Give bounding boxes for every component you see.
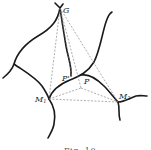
dashed-lines xyxy=(49,8,118,102)
label-M1: M1 xyxy=(34,95,46,104)
label-P: P xyxy=(83,77,90,86)
label-Pprime: P' xyxy=(61,74,70,83)
dash-G-Pprime xyxy=(60,8,72,77)
curve-M1-down xyxy=(48,99,55,138)
curve-left-ridge xyxy=(3,8,60,78)
curve-left-lower xyxy=(14,64,49,99)
curve-top-tick xyxy=(55,3,63,8)
solid-curves xyxy=(3,3,147,138)
curve-G-to-Pprime xyxy=(60,8,71,76)
point-labels: G P' P M1 M2 xyxy=(34,6,130,104)
label-G: G xyxy=(63,6,70,15)
geometry-figure: G P' P M1 M2 Fig. 10 xyxy=(0,0,151,150)
curve-M2-down xyxy=(118,102,120,120)
dash-M1-M2 xyxy=(49,99,118,102)
figure-caption: Fig. 10 xyxy=(64,146,96,150)
label-M2: M2 xyxy=(118,92,130,101)
